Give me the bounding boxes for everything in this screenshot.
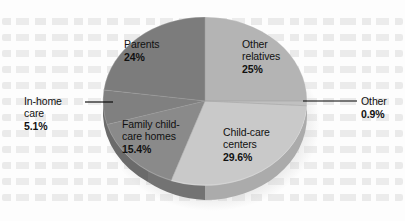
pie-label-other-name: Other [361,95,387,107]
pie-label-parents-name: Parents [124,38,160,50]
pie-label-in-home-care-name-line1: In-home [24,95,62,107]
pie-label-child-care-centers-name-line2: centers [223,138,270,150]
pie-label-in-home-care-name-line2: care [24,107,62,119]
pie-label-other-relatives-value: 25% [242,63,280,75]
pie-label-family-child-care-homes-value: 15.4% [122,143,180,155]
pie-label-family-child-care-homes-name-line2: care homes [122,130,180,142]
pie-label-in-home-care: In-home care 5.1% [24,95,62,133]
pie-label-child-care-centers-name-line1: Child-care [223,126,270,138]
pie-label-other-relatives: Other relatives 25% [242,38,280,76]
pie-label-child-care-centers-value: 29.6% [223,151,270,163]
pie-label-other-value: 0.9% [361,108,387,120]
pie-label-other-relatives-name-line2: relatives [242,50,280,62]
pie-label-family-child-care-homes-name-line1: Family child- [122,118,180,130]
pie-label-child-care-centers: Child-care centers 29.6% [223,126,270,164]
pie-label-other-relatives-name-line1: Other [242,38,280,50]
pie-label-in-home-care-value: 5.1% [24,120,62,132]
pie-chart-figure: Parents 24% Other relatives 25% Child-ca… [0,0,405,221]
pie-label-family-child-care-homes: Family child- care homes 15.4% [122,118,180,156]
pie-label-parents-value: 24% [124,51,160,63]
pie-label-other: Other 0.9% [361,95,387,120]
pie-label-parents: Parents 24% [124,38,160,63]
